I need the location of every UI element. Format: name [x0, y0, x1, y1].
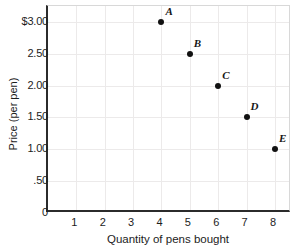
x-axis-tick-label: 4	[149, 216, 169, 228]
gridline-vertical	[133, 6, 134, 210]
x-axis-title: Quantity of pens bought	[46, 233, 290, 245]
gridline-vertical	[190, 6, 191, 210]
gridline-vertical	[275, 6, 276, 210]
gridline-vertical	[218, 6, 219, 210]
gridline-vertical	[247, 6, 248, 210]
data-point-label: D	[251, 100, 259, 112]
x-axis-tick-label: 3	[121, 216, 141, 228]
gridline-vertical	[161, 6, 162, 210]
y-axis-tick-label: .50	[2, 174, 48, 186]
gridline-horizontal	[48, 54, 289, 55]
x-axis-tick-label: 7	[235, 216, 255, 228]
plot-area: ABCDE	[46, 5, 290, 212]
x-axis-tick-label: 6	[206, 216, 226, 228]
y-axis-tick-label: 0	[2, 206, 48, 218]
data-point-label: B	[194, 37, 201, 49]
x-axis-tick-label: 8	[263, 216, 283, 228]
data-point	[187, 51, 193, 57]
gridline-horizontal	[48, 149, 289, 150]
scatter-chart: ABCDE 0.501.001.502.002.50$3.00 12345678…	[0, 0, 304, 252]
gridline-vertical	[76, 6, 77, 210]
data-point	[215, 83, 221, 89]
data-point-label: A	[165, 5, 172, 17]
gridline-horizontal	[48, 22, 289, 23]
x-axis-tick-label: 1	[64, 216, 84, 228]
y-axis-tick-label: $3.00	[2, 15, 48, 27]
gridline-horizontal	[48, 181, 289, 182]
data-point	[272, 146, 278, 152]
gridline-horizontal	[48, 86, 289, 87]
data-point-label: E	[279, 132, 286, 144]
data-point-label: C	[222, 69, 229, 81]
y-axis-title: Price (per pen)	[7, 54, 19, 174]
gridline-horizontal	[48, 117, 289, 118]
data-point	[158, 19, 164, 25]
data-point	[244, 114, 250, 120]
x-axis-tick-label: 2	[93, 216, 113, 228]
gridline-vertical	[105, 6, 106, 210]
x-axis-tick-label: 5	[178, 216, 198, 228]
